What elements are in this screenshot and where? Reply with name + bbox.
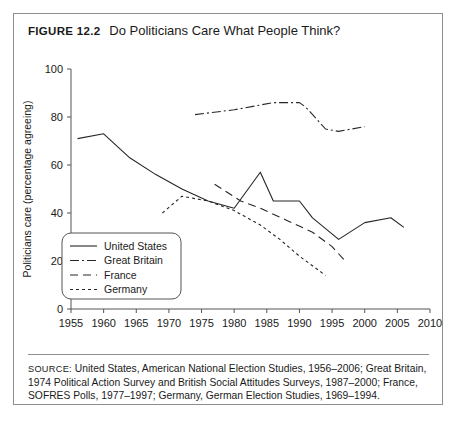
source-text: United States, American National Electio… (28, 363, 426, 401)
figure-title-bar: Figure 12.2 Do Politicians Care What Peo… (14, 14, 442, 47)
x-tick-label: 1990 (287, 317, 311, 329)
x-tick-label: 2010 (418, 317, 442, 329)
x-tick-label: 2005 (385, 317, 409, 329)
figure-word: Figure 12.2 (28, 25, 100, 37)
y-tick-label: 60 (51, 159, 63, 171)
y-axis-title: Politicians care (percentage agreeing) (21, 101, 33, 278)
x-tick-label: 1995 (320, 317, 344, 329)
line-chart-svg: 0204060801001955196019651970197519801985… (14, 47, 444, 352)
series-line-france (215, 184, 346, 261)
x-tick-label: 1960 (91, 317, 115, 329)
figure-container: Figure 12.2 Do Politicians Care What Peo… (13, 13, 443, 405)
y-tick-label: 20 (51, 255, 63, 267)
legend-label-france[interactable]: France (104, 269, 137, 281)
legend-label-great-britain[interactable]: Great Britain (104, 254, 163, 266)
source-divider (28, 354, 429, 355)
series-line-germany (162, 196, 325, 275)
series-line-great-britain (195, 103, 365, 132)
chart-legend[interactable]: United StatesGreat BritainFranceGermany (62, 233, 181, 299)
y-tick-label: 40 (51, 207, 63, 219)
legend-label-germany[interactable]: Germany (104, 283, 148, 295)
x-tick-label: 1965 (124, 317, 148, 329)
x-tick-label: 2000 (352, 317, 376, 329)
source-label: Source: (28, 364, 72, 374)
x-tick-label: 1980 (222, 317, 246, 329)
figure-number-label: Figure 12.2 (28, 25, 100, 37)
series-line-united-states (78, 134, 404, 240)
y-tick-label: 100 (45, 63, 63, 75)
x-tick-label: 1975 (189, 317, 213, 329)
source-note: Source: United States, American National… (28, 362, 432, 403)
y-tick-label: 0 (57, 303, 63, 315)
y-axis-title-text: Politicians care (percentage agreeing) (21, 101, 33, 278)
legend-label-united-states[interactable]: United States (104, 240, 167, 252)
y-tick-label: 80 (51, 111, 63, 123)
x-tick-label: 1985 (255, 317, 279, 329)
x-tick-label: 1970 (157, 317, 181, 329)
figure-title-text: Do Politicians Care What People Think? (109, 23, 340, 38)
x-tick-label: 1955 (59, 317, 83, 329)
chart-plot-area: 0204060801001955196019651970197519801985… (14, 47, 444, 352)
